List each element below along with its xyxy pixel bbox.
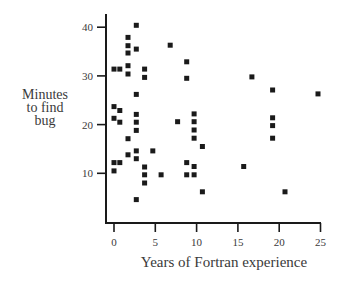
data-point [134,92,139,97]
data-point [316,91,321,96]
x-tick-label: 0 [111,236,117,248]
data-point [142,165,147,170]
data-point [112,168,117,173]
data-point [200,144,205,149]
data-point [126,35,131,40]
data-point [270,115,275,120]
data-point [249,74,254,79]
data-point [184,172,189,177]
data-point [200,189,205,194]
data-point [134,112,139,117]
data-point [270,123,275,128]
data-point [117,67,122,72]
data-point [168,43,173,48]
data-point [175,119,180,124]
plot-area: 051015202510203040 [0,0,339,283]
data-point [112,67,117,72]
data-point [117,108,122,113]
data-point [126,51,131,56]
data-point [270,88,275,93]
data-point [142,181,147,186]
data-point [126,43,131,48]
x-tick-label: 10 [191,236,203,248]
data-point [184,160,189,165]
data-point [142,172,147,177]
data-point [184,76,189,81]
x-tick-label: 25 [315,236,327,248]
data-point [134,156,139,161]
data-point [126,136,131,141]
data-point [241,164,246,169]
data-point [117,160,122,165]
data-point [112,160,117,165]
y-tick-label: 30 [82,70,94,82]
data-point [112,104,117,109]
data-point [270,136,275,141]
data-point [134,23,139,28]
y-axis-label-line-3: bug [6,114,84,127]
x-tick-label: 15 [232,236,244,248]
data-point [126,63,131,68]
data-point [134,148,139,153]
data-point [192,136,197,141]
data-point [117,120,122,125]
data-point [192,172,197,177]
data-point [192,111,197,116]
data-point [192,164,197,169]
data-point [142,67,147,72]
data-point [134,120,139,125]
x-tick-label: 5 [153,236,159,248]
data-point [134,197,139,202]
data-point [142,75,147,80]
x-axis-label: Years of Fortran experience [114,254,334,271]
data-point [192,128,197,133]
y-axis-label: Minutes to find bug [6,88,84,127]
data-point [112,116,117,121]
data-point [134,47,139,52]
data-point [150,148,155,153]
data-point [159,172,164,177]
y-tick-label: 10 [82,167,94,179]
x-tick-label: 20 [274,236,286,248]
data-point [126,72,131,77]
data-point [126,152,131,157]
data-point [283,189,288,194]
data-point [192,119,197,124]
y-tick-label: 40 [82,21,94,33]
data-point [134,128,139,133]
scatter-chart: 051015202510203040 Minutes to find bug Y… [0,0,339,283]
data-point [184,59,189,64]
